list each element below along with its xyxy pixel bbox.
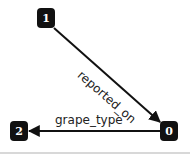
- node-0-label: 0: [165, 125, 173, 138]
- edge-label-grape-type: grape_type: [55, 113, 123, 127]
- node-0[interactable]: 0: [160, 121, 178, 141]
- node-2-label: 2: [15, 125, 23, 138]
- bottom-divider: [0, 152, 190, 154]
- node-2[interactable]: 2: [10, 121, 28, 141]
- node-1-label: 1: [42, 12, 50, 25]
- edge-reported-on: [54, 28, 160, 122]
- node-1[interactable]: 1: [37, 8, 55, 28]
